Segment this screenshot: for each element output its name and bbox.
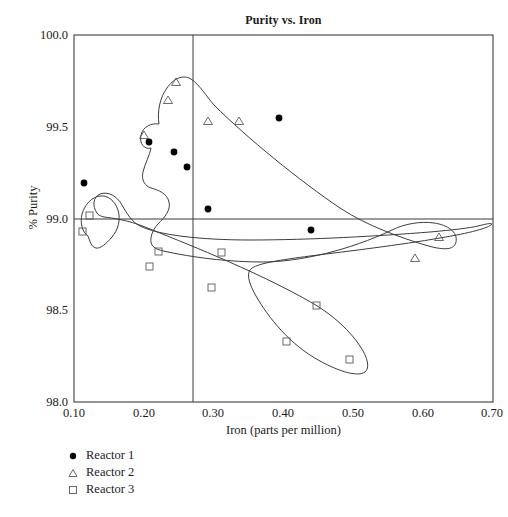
legend-label: Reactor 2 — [84, 465, 134, 480]
data-point-reactor-2 — [235, 117, 244, 125]
data-point-reactor-1 — [81, 180, 88, 187]
open-triangle-icon — [62, 464, 84, 481]
data-point-reactor-1 — [308, 227, 315, 234]
chart-figure: Purity vs. Iron % Purity Iron (parts per… — [0, 0, 508, 517]
data-point-reactor-1 — [146, 139, 153, 146]
data-point-reactor-2 — [164, 96, 173, 104]
data-point-reactor-2 — [411, 254, 420, 262]
data-point-reactor-3 — [346, 356, 353, 363]
legend-item-reactor-1: Reactor 1 — [62, 447, 134, 464]
data-point-reactor-3 — [86, 212, 93, 219]
chart-legend: Reactor 1 Reactor 2 Reactor 3 — [62, 447, 134, 498]
data-point-reactor-3 — [208, 284, 215, 291]
contour-reactor-3 — [94, 193, 492, 374]
series-reactor-1 — [81, 115, 315, 234]
data-point-reactor-1 — [171, 149, 178, 156]
legend-label: Reactor 3 — [84, 482, 134, 497]
data-point-reactor-1 — [276, 115, 283, 122]
data-point-reactor-2 — [435, 233, 444, 241]
data-point-reactor-3 — [283, 338, 290, 345]
legend-label: Reactor 1 — [84, 448, 134, 463]
data-point-reactor-2 — [204, 117, 213, 125]
data-point-reactor-3 — [146, 263, 153, 270]
series-reactor-3 — [79, 212, 353, 363]
legend-item-reactor-3: Reactor 3 — [62, 481, 134, 498]
data-point-reactor-3 — [218, 249, 225, 256]
legend-item-reactor-2: Reactor 2 — [62, 464, 134, 481]
open-square-icon — [62, 481, 84, 498]
data-point-reactor-1 — [184, 164, 191, 171]
plot-canvas — [0, 0, 508, 517]
contour-reactor-3-lobe — [81, 196, 119, 248]
data-point-reactor-1 — [205, 206, 212, 213]
filled-circle-icon — [62, 447, 84, 464]
